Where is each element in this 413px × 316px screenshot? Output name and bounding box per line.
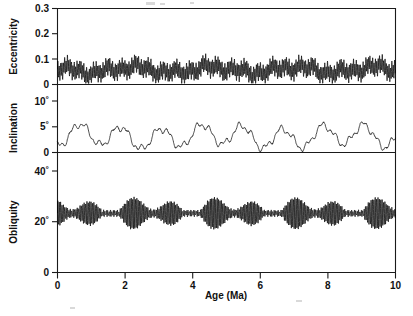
x-tick-label: 4 (190, 280, 196, 291)
inclination-tick-5: 5˚ (40, 121, 49, 132)
inclination-curve (58, 122, 396, 152)
eccentricity-tick-0.2: 0.2 (35, 28, 49, 39)
inclination-tick-10: 10˚ (35, 96, 49, 107)
scan-speckles (70, 2, 302, 309)
axes (57, 8, 396, 273)
obliquity-axis-label: Obliquity (8, 200, 19, 244)
obliquity-tick-40: 40˚ (35, 166, 49, 177)
x-axis-label: Age (Ma) (205, 290, 247, 301)
obliquity-tick-20: 20˚ (35, 216, 49, 227)
eccentricity-axis-label: Eccentricity (8, 18, 19, 75)
x-tick-label: 10 (390, 280, 402, 291)
chart-svg: 0.3 0.2 0.1 0 Eccentricity 10˚ 5˚ 0 Incl… (0, 0, 413, 316)
eccentricity-tick-0.3: 0.3 (35, 3, 49, 14)
x-tick-label: 2 (122, 280, 128, 291)
inclination-tick-0: 0 (43, 147, 49, 158)
x-tick-label: 6 (258, 280, 264, 291)
eccentricity-curve (58, 54, 396, 84)
x-axis-ticks (58, 273, 396, 279)
orbital-parameters-figure: 0.3 0.2 0.1 0 Eccentricity 10˚ 5˚ 0 Incl… (0, 0, 413, 316)
x-tick-label: 8 (325, 280, 331, 291)
eccentricity-tick-0.1: 0.1 (35, 54, 49, 65)
eccentricity-tick-0: 0 (43, 79, 49, 90)
x-tick-label: 0 (55, 280, 61, 291)
panel-inclination: 10˚ 5˚ 0 Inclination (8, 96, 396, 159)
obliquity-tick-0: 0 (43, 267, 49, 278)
panel-obliquity: 40˚ 20˚ 0 Obliquity (8, 166, 396, 279)
inclination-y-ticks (52, 101, 58, 153)
obliquity-y-ticks (52, 171, 58, 273)
panel-eccentricity: 0.3 0.2 0.1 0 Eccentricity (8, 3, 396, 90)
x-axis: 0246810 Age (Ma) (55, 273, 402, 302)
eccentricity-y-ticks (52, 9, 58, 85)
obliquity-curve (58, 197, 396, 230)
inclination-axis-label: Inclination (8, 103, 19, 153)
